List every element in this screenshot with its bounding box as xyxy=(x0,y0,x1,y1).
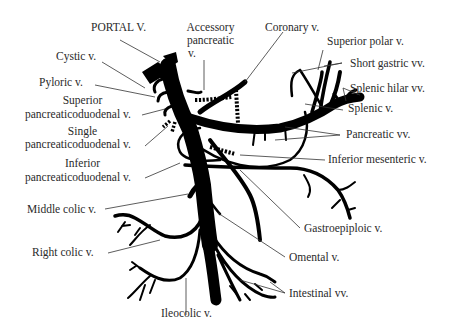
label-accessory-pancreatic-2: pancreatic xyxy=(183,34,238,47)
label-superior-polar-vein: Superior polar v. xyxy=(327,35,404,48)
label-inferior-mesenteric-vein: Inferior mesenteric v. xyxy=(328,153,427,166)
accessory-dashed xyxy=(195,97,232,100)
coronary-dashed xyxy=(236,90,238,123)
label-right-colic-vein: Right colic v. xyxy=(32,246,94,259)
intestinal-veins xyxy=(212,235,275,300)
splenic-vein xyxy=(190,62,360,130)
label-cystic-vein: Cystic v. xyxy=(56,50,96,63)
label-omental-vein: Omental v. xyxy=(289,251,339,264)
label-superior-pd-1: Superior xyxy=(25,94,140,107)
label-inferior-pd-2: pancreaticoduodenal v. xyxy=(25,171,131,184)
label-coronary-vein: Coronary v. xyxy=(265,21,319,34)
label-splenic-vein: Splenic v. xyxy=(348,102,393,115)
label-portal-vein: PORTAL V. xyxy=(91,21,146,34)
label-pancreatic-veins: Pancreatic vv. xyxy=(346,128,410,141)
label-accessory-pancreatic-1: Accessory xyxy=(183,21,238,34)
label-short-gastric-veins: Short gastric vv. xyxy=(350,57,425,70)
label-splenic-hilar-veins: Splenic hilar vv. xyxy=(350,82,425,95)
label-middle-colic-vein: Middle colic v. xyxy=(27,203,96,216)
label-single-pd-2: pancreaticoduodenal v. xyxy=(25,138,131,151)
label-gastroepiploic-vein: Gastroepiploic v. xyxy=(304,222,382,235)
label-single-pd-1: Single xyxy=(25,125,140,138)
label-intestinal-veins: Intestinal vv. xyxy=(289,287,348,300)
inferior-mesenteric-vein xyxy=(210,140,260,240)
label-inferior-pd-1: Inferior xyxy=(25,157,140,170)
label-pyloric-vein: Pyloric v. xyxy=(39,76,83,89)
label-accessory-pancreatic-3: v. xyxy=(188,47,196,60)
label-ileocolic-vein: Ileocolic v. xyxy=(161,307,212,320)
label-superior-pd-2: pancreaticoduodenal v. xyxy=(25,108,131,121)
